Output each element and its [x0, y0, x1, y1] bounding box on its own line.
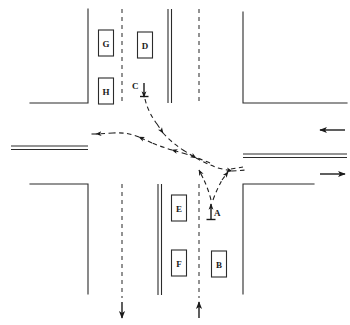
traj-W-seg5	[113, 133, 139, 137]
traj-W-seg3	[152, 143, 172, 150]
vehicle-label-H: H	[102, 87, 109, 97]
flow-arrows-east	[320, 130, 345, 174]
flow-arrows-south	[122, 302, 199, 318]
road-edges	[30, 9, 347, 294]
vehicle-label-D: D	[142, 41, 149, 51]
vehicle-marker-A[interactable]: A	[207, 204, 222, 220]
vehicle-label-F: F	[176, 259, 182, 269]
vehicle-box-B[interactable]: B	[212, 251, 227, 277]
corner-edge-top-right	[243, 12, 347, 103]
trajectory-westbound-departure	[88, 133, 210, 163]
traj-C-seg1	[145, 99, 157, 124]
diagram-canvas: G H D E F B	[0, 0, 350, 325]
traj-W-seg4-arrow	[139, 137, 152, 143]
vehicle-marker-C[interactable]: C	[132, 81, 149, 97]
vehicle-box-H[interactable]: H	[99, 78, 114, 104]
vehicle-label-G: G	[102, 39, 109, 49]
lane-markings	[122, 9, 199, 298]
vehicle-label-C: C	[132, 81, 139, 91]
vehicle-box-G[interactable]: G	[99, 30, 114, 56]
traj-W-seg6-arrow	[96, 133, 113, 134]
vehicle-box-E[interactable]: E	[172, 195, 187, 221]
traj-C-seg3	[163, 133, 183, 150]
vehicle-box-F[interactable]: F	[172, 250, 187, 276]
traj-A-left-branch-seg1	[203, 178, 211, 200]
traj-C-seg7-tail	[232, 170, 247, 171]
vehicle-boxes: G H D E F B	[99, 30, 227, 277]
corner-edge-bottom-left	[30, 184, 88, 294]
intersection-diagram: G H D E F B	[0, 0, 350, 325]
corner-edge-bottom-right	[243, 184, 314, 294]
traj-A-right-branch-arrow	[222, 172, 228, 180]
traj-A-right-branch-seg1	[213, 180, 222, 200]
traj-A-left-branch-arrow	[199, 170, 203, 178]
traj-A-east-exit-tail	[231, 167, 243, 169]
vehicle-box-D[interactable]: D	[138, 32, 153, 58]
vehicle-label-A: A	[214, 208, 221, 218]
traj-C-seg6-arrow	[218, 168, 232, 171]
trajectory-vehicle-C	[145, 99, 247, 171]
traj-C-seg2-arrow	[157, 124, 163, 133]
corner-edge-top-left	[30, 9, 88, 103]
trajectory-vehicle-A	[199, 167, 243, 200]
vehicle-label-E: E	[176, 204, 182, 214]
vehicle-label-B: B	[216, 260, 222, 270]
traj-C-seg5	[196, 158, 218, 168]
